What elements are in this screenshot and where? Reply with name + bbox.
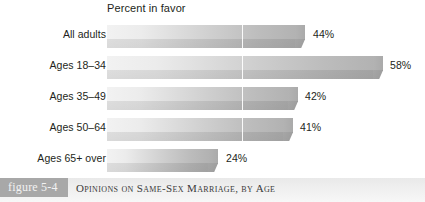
category-label: All adults (63, 28, 106, 40)
value-label: 41% (300, 121, 321, 133)
gridline (242, 87, 243, 110)
value-label: 58% (390, 59, 411, 71)
figure-number-label: figure 5-4 (8, 180, 58, 195)
value-label: 44% (313, 28, 334, 40)
bar-bevel-shade (373, 56, 383, 79)
bar-row: Ages 50–64 41% (0, 115, 425, 145)
bar-fill (107, 56, 374, 79)
bar-bevel-shade (283, 118, 293, 141)
value-label: 24% (226, 152, 247, 164)
bar-all-adults (107, 25, 305, 48)
bar-row: Ages 65+ over 24% (0, 146, 425, 176)
plot-area: All adults 44% Ages 18–34 58% Ages 35–49 (0, 22, 425, 177)
bar-ages-50-64 (107, 118, 293, 141)
gridline (242, 118, 243, 141)
bar-row: Ages 35–49 42% (0, 84, 425, 114)
gridline (242, 25, 243, 48)
chart-title: Percent in favor (107, 2, 186, 14)
figure-container: Percent in favor All adults 44% Ages 18–… (0, 0, 425, 202)
bar-fill (107, 149, 209, 172)
category-label: Ages 18–34 (49, 59, 106, 71)
bar-fill (107, 118, 284, 141)
category-label: Ages 50–64 (49, 121, 106, 133)
bar-fill (107, 87, 289, 110)
category-label: Ages 65+ over (37, 152, 106, 164)
bar-bevel-shade (288, 87, 298, 110)
gridline (242, 56, 243, 79)
bar-row: All adults 44% (0, 22, 425, 52)
bar-ages-35-49 (107, 87, 298, 110)
category-label: Ages 35–49 (49, 90, 106, 102)
bar-row: Ages 18–34 58% (0, 53, 425, 83)
bar-bevel-shade (208, 149, 218, 172)
bar-ages-18-34 (107, 56, 383, 79)
value-label: 42% (305, 90, 326, 102)
figure-caption-title: Opinions on Same-Sex Marriage, by Age (76, 182, 275, 194)
figure-number-badge: figure 5-4 (0, 178, 68, 197)
bar-fill (107, 25, 296, 48)
figure-caption-bar: figure 5-4 Opinions on Same-Sex Marriage… (0, 178, 425, 202)
bar-bevel-shade (295, 25, 305, 48)
bar-ages-65-over (107, 149, 218, 172)
